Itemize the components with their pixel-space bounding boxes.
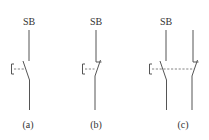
panel-a-device-label: SB bbox=[23, 16, 36, 27]
panel-c-device-label: SB bbox=[160, 16, 173, 27]
switch-symbols-diagram: SB (a) SB (b) SB (c) bbox=[0, 0, 209, 140]
panel-c-caption: (c) bbox=[177, 119, 188, 131]
panel-b-button-actuator-icon bbox=[83, 64, 86, 74]
panel-a-contact-blade bbox=[23, 61, 30, 80]
panel-a: SB (a) bbox=[12, 16, 36, 131]
panel-c: SB (c) bbox=[150, 16, 199, 131]
panel-a-caption: (a) bbox=[22, 119, 33, 131]
panel-b: SB (b) bbox=[83, 16, 103, 131]
panel-c-button-actuator-icon bbox=[150, 64, 153, 74]
panel-b-device-label: SB bbox=[90, 16, 103, 27]
panel-b-caption: (b) bbox=[90, 119, 102, 131]
panel-a-button-actuator-icon bbox=[12, 64, 15, 74]
panel-c-no-contact-blade bbox=[160, 61, 167, 80]
